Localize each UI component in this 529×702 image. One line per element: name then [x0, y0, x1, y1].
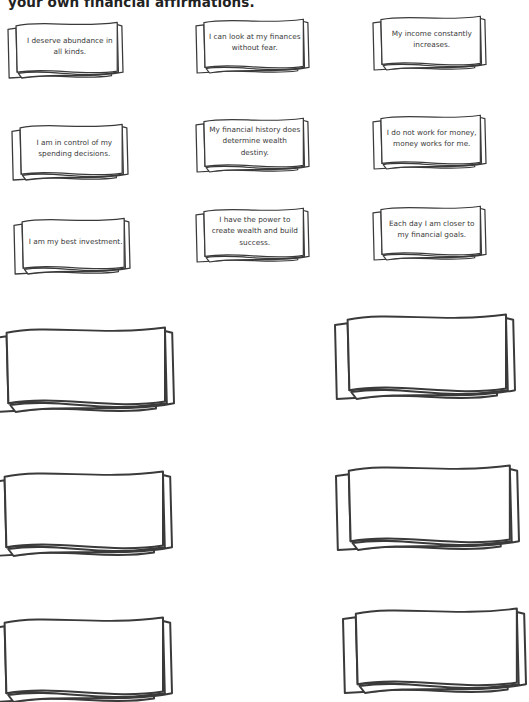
affirmation-text: I can look at my finances without fear.	[208, 20, 301, 64]
banner-card-shape	[335, 311, 515, 399]
blank-affirmation-card	[335, 311, 515, 399]
affirmation-card: I can look at my finances without fear.	[196, 17, 309, 73]
affirmation-text: My financial history does determine weal…	[208, 119, 301, 163]
banner-card-shape	[0, 614, 172, 702]
intro-text: your own financial affirmations.	[8, 0, 255, 10]
blank-affirmation-card	[343, 605, 526, 693]
affirmation-text: I am my best investment.	[27, 219, 124, 264]
banner-card-shape	[0, 324, 174, 412]
blank-affirmation-card	[0, 324, 174, 412]
affirmation-card: I do not work for money, money works for…	[373, 113, 486, 169]
affirmation-card: Each day I am closer to my financial goa…	[373, 204, 486, 260]
banner-card-shape	[336, 462, 519, 550]
affirmation-text: I have the power to create wealth and bu…	[208, 209, 301, 253]
blank-affirmation-card	[0, 468, 172, 556]
blank-affirmation-card	[336, 462, 519, 550]
affirmation-card: I am in control of my spending decisions…	[12, 122, 128, 180]
blank-affirmation-card	[0, 614, 172, 702]
banner-card-shape	[0, 468, 172, 556]
affirmation-card: My income constantly increases.	[373, 14, 486, 70]
affirmation-text: I do not work for money, money works for…	[385, 116, 478, 160]
affirmation-text: My income constantly increases.	[385, 17, 478, 61]
affirmation-card: My financial history does determine weal…	[196, 116, 309, 172]
banner-card-shape	[343, 605, 526, 693]
affirmation-card: I have the power to create wealth and bu…	[196, 206, 309, 262]
affirmation-card: I deserve abundance in all kinds.	[8, 20, 123, 78]
affirmation-text: Each day I am closer to my financial goa…	[385, 207, 478, 251]
affirmation-card: I am my best investment.	[14, 216, 130, 274]
affirmation-text: I deserve abundance in all kinds.	[21, 23, 117, 68]
affirmation-text: I am in control of my spending decisions…	[25, 125, 122, 170]
